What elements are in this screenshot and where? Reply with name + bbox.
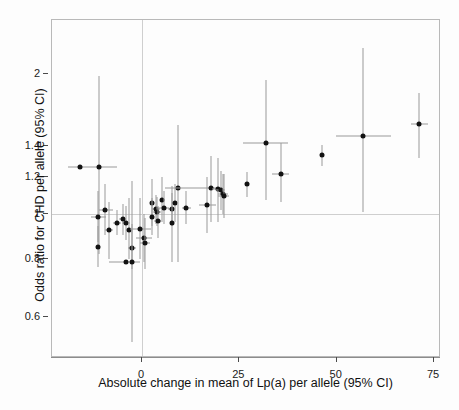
y-axis-title: Odds ratio for CHD per allele (95% CI) [33, 45, 47, 345]
data-point [245, 182, 250, 187]
data-point [155, 219, 160, 224]
data-point [106, 227, 111, 232]
error-bar-vertical [177, 125, 178, 261]
x-axis-title: Absolute change in mean of Lp(a) per all… [51, 376, 440, 390]
data-point [184, 206, 189, 211]
data-point [114, 221, 119, 226]
x-axis-line [51, 357, 440, 358]
data-point [361, 134, 366, 139]
data-point [138, 226, 143, 231]
plot-area [51, 19, 440, 357]
chart-canvas: 0.60.811.21.42 0255075 Odds ratio for CH… [0, 0, 459, 410]
data-point [96, 244, 101, 249]
data-point [161, 206, 166, 211]
reference-line-or-1 [52, 214, 439, 215]
x-tick-mark [238, 357, 239, 362]
x-tick-mark [141, 357, 142, 362]
data-point [97, 165, 102, 170]
data-point [124, 259, 129, 264]
data-point [129, 259, 134, 264]
data-point [263, 141, 268, 146]
data-point [150, 215, 155, 220]
data-point [143, 241, 148, 246]
x-tick-mark [336, 357, 337, 362]
data-point [77, 165, 82, 170]
x-tick-mark [433, 357, 434, 362]
data-point [103, 208, 108, 213]
error-bar-horizontal [68, 167, 117, 168]
data-point [319, 152, 324, 157]
data-point [221, 193, 226, 198]
reference-line-x-0 [142, 20, 143, 356]
data-point [278, 171, 283, 176]
data-point [417, 122, 422, 127]
data-point [96, 215, 101, 220]
error-bar-vertical [363, 48, 364, 212]
